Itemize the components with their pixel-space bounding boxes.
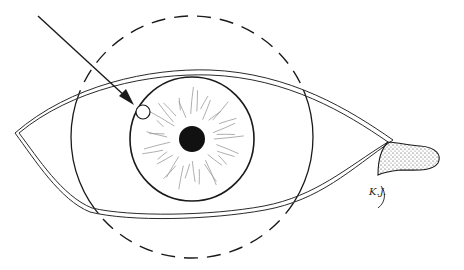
target-circle	[136, 105, 150, 119]
eye-diagram	[0, 0, 464, 270]
pointer-arrow	[38, 16, 134, 105]
caruncle	[378, 142, 439, 175]
signature: K.J.	[369, 186, 386, 197]
pupil	[179, 126, 205, 152]
